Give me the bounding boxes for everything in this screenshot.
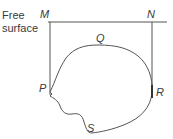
label-P: P <box>39 82 47 94</box>
fluid-surface-diagram: Free surface M N Q P R S <box>0 0 173 139</box>
label-Q: Q <box>96 32 105 44</box>
label-surface: surface <box>2 22 38 34</box>
closed-surface-curve <box>50 45 152 133</box>
label-R: R <box>156 86 164 98</box>
label-free: Free <box>2 9 25 21</box>
label-S: S <box>87 122 95 134</box>
label-M: M <box>40 8 50 20</box>
label-N: N <box>147 8 155 20</box>
